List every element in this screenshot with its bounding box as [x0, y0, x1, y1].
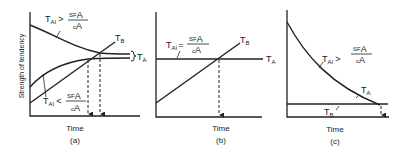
panel-c-ta-leader [356, 95, 359, 98]
tendency-diagram: Strength of tendency TAI> SFA cA TAI< SF… [0, 0, 401, 160]
panel-a-upper-denominator: cA [73, 21, 82, 31]
panel-a-ta-label: TA [137, 52, 147, 63]
panel-b-xlabel: Time [212, 124, 230, 133]
panel-c-ta-label: TA [361, 85, 371, 96]
panel-c-gt-denominator: cA [356, 55, 365, 65]
panel-a-lower-denominator: cA [71, 103, 80, 113]
panel-b-tb-label: TB [240, 35, 250, 46]
panel-c-gt-numerator: SFA [353, 44, 367, 54]
panel-a-lower-label: TAI< [43, 96, 61, 107]
panel-b-eq-label: TAI= [166, 40, 183, 51]
panel-b-caption: (b) [216, 136, 226, 145]
panel-a-xlabel: Time [66, 124, 84, 133]
panel-a-brace [131, 51, 136, 61]
panel-a-lower-numerator: SFA [67, 91, 81, 101]
panel-c-xlabel: Time [326, 125, 344, 134]
panel-a-tb-label: TB [115, 33, 125, 44]
panel-c: TAI> SFA cA TA TB Time (c) [287, 10, 389, 146]
panel-c-tb-leader [336, 106, 339, 110]
panel-b-leader [177, 51, 180, 58]
panel-c-gt-label: TAI> [322, 54, 340, 65]
panel-a-upper-label: TAI> [45, 14, 63, 25]
panel-a-caption: (a) [70, 136, 80, 145]
panel-a-upper-numerator: SFA [69, 10, 83, 20]
panel-c-caption: (c) [330, 137, 340, 146]
panel-b-eq-denominator: cA [192, 45, 201, 55]
panel-a: TAI> SFA cA TAI< SFA cA TB TA Time (a) [30, 10, 147, 145]
panel-b: TAI= SFA cA TB TA Time (b) [156, 12, 276, 145]
y-axis-label: Strength of tendency [18, 33, 26, 98]
panel-b-ta-label: TA [266, 54, 276, 65]
panel-c-tb-label: TB [324, 107, 334, 118]
panel-a-increasing-curve [30, 58, 130, 87]
panel-b-eq-numerator: SFA [189, 34, 203, 44]
